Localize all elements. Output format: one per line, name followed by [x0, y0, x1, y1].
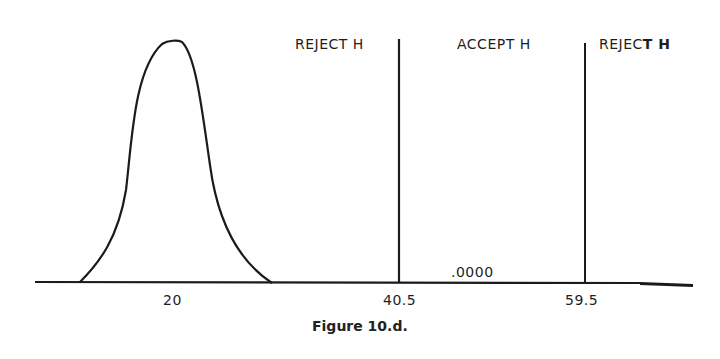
reject-right-prefix: REJEC	[599, 36, 643, 52]
tick-label-mean: 20	[163, 292, 182, 308]
normal-curve	[80, 41, 272, 283]
acceptance-probability-label: .0000	[451, 264, 494, 280]
distribution-diagram	[0, 0, 720, 359]
reject-region-left-label: REJECT H	[295, 36, 364, 52]
reject-right-bold: T H	[643, 36, 671, 52]
x-axis-baseline	[35, 282, 693, 285]
tick-label-upper-critical: 59.5	[565, 292, 598, 308]
figure-caption: Figure 10.d.	[312, 318, 408, 334]
accept-region-label: ACCEPT H	[457, 36, 531, 52]
tick-label-lower-critical: 40.5	[383, 292, 416, 308]
reject-region-right-label: REJECT H	[599, 36, 670, 52]
